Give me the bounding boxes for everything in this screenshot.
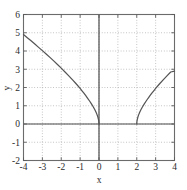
y-tick-label: 2 <box>15 83 20 93</box>
y-tick-label: 5 <box>15 28 20 38</box>
x-axis-title: x <box>97 175 102 185</box>
y-tick-label: 3 <box>15 65 20 75</box>
x-tick-label: 3 <box>153 162 158 172</box>
y-tick-label: 0 <box>15 119 20 129</box>
x-tick-label: 1 <box>116 162 121 172</box>
y-axis-title: y <box>2 85 12 90</box>
x-tick-label: 0 <box>97 162 102 172</box>
x-tick-label: -2 <box>57 162 65 172</box>
y-tick-label: 6 <box>15 10 20 20</box>
y-tick-label: -2 <box>12 156 20 166</box>
curve-left-branch <box>24 35 100 124</box>
x-tick-label: 4 <box>172 162 177 172</box>
x-tick-label: -3 <box>38 162 46 172</box>
y-tick-label: 4 <box>15 46 20 56</box>
x-tick-label: 2 <box>134 162 139 172</box>
chart-figure: -4-3-2-101234 -2-10123456 x y <box>0 0 187 190</box>
x-tick-labels: -4-3-2-101234 <box>20 162 178 172</box>
x-tick-label: -1 <box>76 162 84 172</box>
zero-axes-group <box>24 15 175 161</box>
curve-right-branch <box>137 71 175 124</box>
plot-canvas: -4-3-2-101234 -2-10123456 x y <box>0 0 187 190</box>
y-tick-label: 1 <box>15 101 20 111</box>
y-tick-labels: -2-10123456 <box>12 10 20 166</box>
y-tick-label: -1 <box>12 138 20 148</box>
x-tick-label: -4 <box>20 162 28 172</box>
